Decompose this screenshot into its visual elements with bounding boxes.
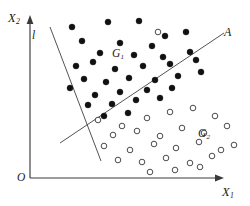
x-axis-label: X1 xyxy=(222,186,234,200)
data-point-filled xyxy=(67,85,73,91)
data-point-filled xyxy=(81,76,87,82)
data-point-filled xyxy=(97,50,103,56)
data-point-filled xyxy=(125,110,131,116)
data-point-filled xyxy=(187,49,193,55)
data-point-filled xyxy=(162,33,168,39)
data-point-filled xyxy=(112,66,118,72)
axes-group xyxy=(27,15,224,181)
group2-label: G2 xyxy=(198,128,210,141)
data-point-open xyxy=(115,157,121,163)
data-point-open xyxy=(147,169,153,175)
data-point-filled xyxy=(167,61,173,67)
x-axis-arrowhead xyxy=(215,175,224,182)
data-point-open xyxy=(212,113,218,119)
data-point-filled xyxy=(193,57,199,63)
data-point-open xyxy=(110,132,116,138)
data-point-open xyxy=(179,125,185,131)
data-point-open xyxy=(163,155,169,161)
data-point-filled xyxy=(160,54,166,60)
data-point-filled xyxy=(175,73,181,79)
data-point-filled xyxy=(157,95,163,101)
data-point-open xyxy=(151,141,157,147)
figure-canvas xyxy=(0,0,250,206)
data-point-open xyxy=(224,123,230,129)
data-point-filled xyxy=(85,102,91,108)
data-point-open xyxy=(157,133,163,139)
y-axis-label: X2 xyxy=(8,12,20,26)
data-point-open xyxy=(209,153,215,159)
data-point-filled xyxy=(131,52,137,58)
data-point-filled xyxy=(169,85,175,91)
data-point-filled xyxy=(92,92,98,98)
data-point-open xyxy=(127,147,133,153)
data-point-open xyxy=(144,115,150,121)
data-point-filled xyxy=(152,77,158,83)
y-axis-arrowhead xyxy=(27,15,34,24)
data-point-open xyxy=(134,128,140,134)
group1-points xyxy=(67,18,204,119)
data-point-filled xyxy=(109,101,115,107)
data-point-filled xyxy=(140,63,146,69)
data-point-filled xyxy=(117,40,123,46)
discriminant-scatter-figure: X2 X1 O l A G1 G2 xyxy=(0,0,250,206)
data-point-open xyxy=(190,105,196,111)
data-point-filled xyxy=(183,29,189,35)
data-point-open xyxy=(101,143,107,149)
data-point-open xyxy=(231,142,237,148)
data-point-open xyxy=(218,147,224,153)
origin-label: O xyxy=(17,172,25,184)
data-point-filled xyxy=(101,113,107,119)
line-l-label: l xyxy=(32,30,35,42)
data-point-filled xyxy=(149,43,155,49)
data-point-open xyxy=(173,145,179,151)
data-point-open xyxy=(167,109,173,115)
data-point-filled xyxy=(90,59,96,65)
data-point-filled xyxy=(73,63,79,69)
data-point-filled xyxy=(126,75,132,81)
data-point-filled xyxy=(105,19,111,25)
data-point-filled xyxy=(144,87,150,93)
data-point-filled xyxy=(133,97,139,103)
data-point-filled xyxy=(79,38,85,44)
data-point-open xyxy=(155,29,161,35)
data-point-filled xyxy=(117,89,123,95)
group1-label: G1 xyxy=(112,48,124,61)
data-point-open xyxy=(95,117,101,123)
data-point-filled xyxy=(198,69,204,75)
data-point-filled xyxy=(136,18,142,24)
data-point-filled xyxy=(69,24,75,30)
data-point-filled xyxy=(103,79,109,85)
data-point-open xyxy=(187,160,193,166)
data-point-open xyxy=(197,164,203,170)
data-point-open xyxy=(139,159,145,165)
data-point-open xyxy=(119,123,125,129)
data-point-open xyxy=(172,167,178,173)
line-a-label: A xyxy=(224,26,231,38)
